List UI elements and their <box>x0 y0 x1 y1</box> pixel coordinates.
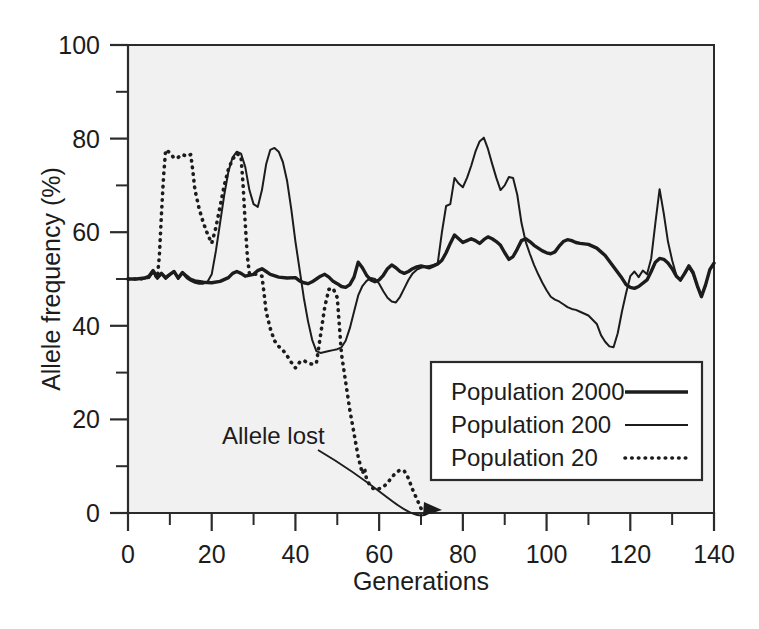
legend-label: Population 2000 <box>451 378 624 405</box>
legend-label: Population 200 <box>451 411 611 438</box>
y-tick-label: 0 <box>86 499 100 527</box>
x-tick-label: 140 <box>693 540 735 568</box>
allele-frequency-line-chart: 020406080100 020406080100120140 Allele f… <box>0 0 759 629</box>
x-tick-label: 60 <box>365 540 393 568</box>
x-tick-label: 120 <box>609 540 651 568</box>
legend: Population 2000Population 200Population … <box>431 362 702 480</box>
annotation-label: Allele lost <box>222 422 325 449</box>
x-tick-label: 80 <box>449 540 477 568</box>
x-tick-label: 0 <box>121 540 135 568</box>
y-tick-label: 100 <box>58 31 100 59</box>
y-tick-label: 20 <box>72 405 100 433</box>
x-tick-label: 40 <box>282 540 310 568</box>
y-axis-ticks <box>110 45 128 513</box>
x-tick-label: 20 <box>198 540 226 568</box>
x-tick-label: 100 <box>526 540 568 568</box>
x-axis-tick-labels: 020406080100120140 <box>121 540 735 568</box>
y-tick-label: 60 <box>72 218 100 246</box>
y-tick-label: 40 <box>72 312 100 340</box>
legend-label: Population 20 <box>451 444 598 471</box>
y-axis-title: Allele frequency (%) <box>37 167 65 391</box>
chart-figure: 020406080100 020406080100120140 Allele f… <box>0 0 759 629</box>
x-axis-title: Generations <box>353 567 489 595</box>
y-tick-label: 80 <box>72 125 100 153</box>
legend-entries: Population 2000Population 200Population … <box>451 378 688 471</box>
